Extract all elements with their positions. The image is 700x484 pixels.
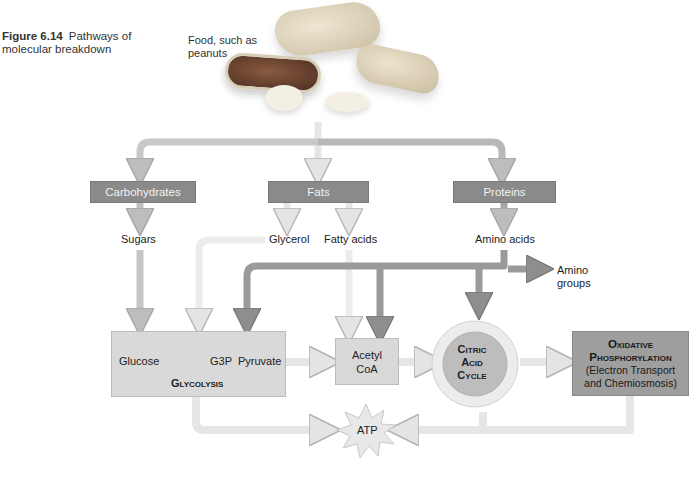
fatty-acids-label: Fatty acids <box>324 233 377 245</box>
acetyl-coa-box: Acetyl CoA <box>335 338 399 385</box>
food-to-proteins-arrow <box>318 142 502 172</box>
food-label-line1: Food, such as <box>188 34 257 47</box>
acetyl-line1: Acetyl <box>336 348 398 362</box>
food-to-carbs-arrow <box>140 142 318 172</box>
glycerol-label: Glycerol <box>269 233 309 245</box>
g3p-label: G3P <box>210 355 232 367</box>
oxphos-sub-line2: and Chemiosmosis) <box>573 377 688 390</box>
peanuts-image <box>225 0 440 120</box>
proteins-box: Proteins <box>453 181 556 203</box>
pyruvate-label: Pyruvate <box>238 355 281 367</box>
amino-acids-label: Amino acids <box>475 233 535 245</box>
figure-title-line1: Pathways of <box>69 30 132 42</box>
oxphos-title-line2: Phosphorylation <box>573 351 688 364</box>
oxidative-phosphorylation-box: Oxidative Phosphorylation (Electron Tran… <box>572 331 689 396</box>
figure-title-line2: molecular breakdown <box>2 43 131 56</box>
glucose-label: Glucose <box>119 355 159 367</box>
food-label-line2: peanuts <box>188 47 257 60</box>
figure-number: Figure 6.14 <box>2 30 63 42</box>
citric-line2: Acid <box>447 356 497 369</box>
atp-label: ATP <box>357 424 378 436</box>
sugars-label: Sugars <box>121 233 156 245</box>
fats-box: Fats <box>268 181 369 203</box>
oxphos-sub-line1: (Electron Transport <box>573 364 688 377</box>
amino-groups-line2: groups <box>557 277 591 290</box>
glycolysis-to-atp-arrow <box>196 396 325 430</box>
amino-groups-label: Amino groups <box>557 264 591 290</box>
citric-line3: Cycle <box>447 369 497 382</box>
coa-line2: CoA <box>336 362 398 376</box>
citric-line1: Citric <box>447 343 497 356</box>
food-label: Food, such as peanuts <box>188 34 257 60</box>
citric-acid-cycle-label: Citric Acid Cycle <box>447 343 497 382</box>
glycolysis-title: Glycolysis <box>171 377 223 389</box>
oxphos-title-line1: Oxidative <box>573 338 688 351</box>
glycerol-to-g3p-arrow <box>199 240 265 322</box>
carbohydrates-box: Carbohydrates <box>90 181 196 203</box>
oxphos-to-atp-arrow <box>403 394 630 430</box>
amino-groups-line1: Amino <box>557 264 591 277</box>
amino-to-pyruvate-arrow <box>247 250 504 322</box>
figure-caption: Figure 6.14Pathways of molecular breakdo… <box>2 30 131 56</box>
